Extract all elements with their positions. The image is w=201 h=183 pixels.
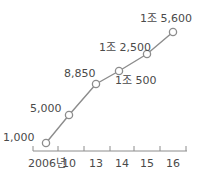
x-tick-label: 2006년 xyxy=(28,157,66,170)
data-value-label: 1조 5,600 xyxy=(140,12,192,25)
value-labels: 1,0005,0008,8501조 5001조 2,5001조 5,600 xyxy=(3,12,192,144)
x-axis xyxy=(33,146,187,151)
data-value-label: 5,000 xyxy=(30,102,62,115)
data-point-marker xyxy=(42,139,49,146)
data-point-marker xyxy=(169,28,176,35)
x-tick-label: 10 xyxy=(62,157,76,170)
data-value-label: 1,000 xyxy=(3,131,35,144)
data-point-marker xyxy=(92,80,99,87)
data-value-label: 1조 2,500 xyxy=(99,41,151,54)
x-tick-label: 14 xyxy=(115,157,129,170)
line-chart: 1,0005,0008,8501조 5001조 2,5001조 5,600 20… xyxy=(0,0,201,183)
data-point-marker xyxy=(65,111,72,118)
data-value-label: 1조 500 xyxy=(115,74,157,87)
x-tick-label: 16 xyxy=(166,157,180,170)
x-tick-label: 13 xyxy=(89,157,103,170)
x-tick-label: 15 xyxy=(140,157,154,170)
data-value-label: 8,850 xyxy=(64,67,96,80)
x-tick-labels: 2006년1013141516 xyxy=(28,157,180,170)
